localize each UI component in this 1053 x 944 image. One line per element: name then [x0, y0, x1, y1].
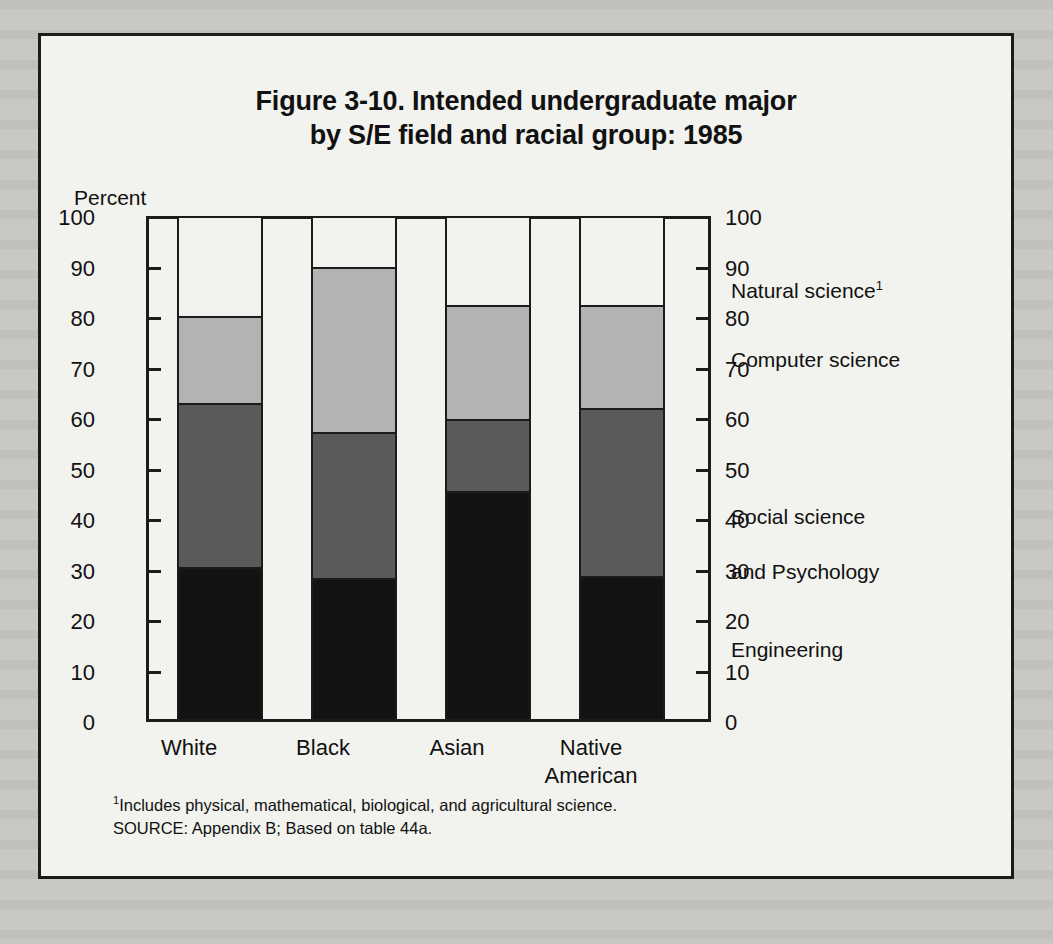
chart-title-line2: by S/E field and racial group: 1985: [41, 118, 1011, 152]
bar-black-segment-social[interactable]: [311, 432, 397, 578]
y-tick-right-60: [696, 418, 711, 421]
bar-native-american-segment-engineering[interactable]: [579, 576, 665, 719]
chart-title: Figure 3-10. Intended undergraduate majo…: [41, 84, 1011, 153]
plot-area: [146, 218, 711, 722]
figure-frame: Figure 3-10. Intended undergraduate majo…: [38, 33, 1014, 879]
footnote-text: Includes physical, mathematical, biologi…: [119, 796, 617, 814]
bar-black[interactable]: [311, 218, 397, 719]
y-label-left-90: 90: [35, 258, 95, 280]
y-label-right-10: 10: [725, 662, 785, 684]
y-tick-right-90: [696, 267, 711, 270]
bar-asian-segment-engineering[interactable]: [445, 491, 531, 719]
y-label-right-100: 100: [725, 207, 785, 229]
y-label-left-60: 60: [35, 409, 95, 431]
legend-natural-footnote-marker: 1: [876, 278, 883, 293]
footnote-line: 1Includes physical, mathematical, biolog…: [113, 793, 617, 817]
bar-asian-segment-social[interactable]: [445, 419, 531, 491]
legend-label-engineering: Engineering: [731, 636, 843, 663]
y-tick-right-70: [696, 368, 711, 371]
y-label-left-50: 50: [35, 460, 95, 482]
legend-social-line1: Social science: [731, 503, 879, 530]
y-tick-right-30: [696, 570, 711, 573]
y-tick-left-80: [146, 317, 161, 320]
y-tick-left-70: [146, 368, 161, 371]
bar-white[interactable]: [177, 218, 263, 719]
legend-natural-text: Natural science: [731, 279, 876, 302]
bar-black-segment-engineering[interactable]: [311, 578, 397, 719]
y-label-left-100: 100: [35, 207, 95, 229]
bar-native-american[interactable]: [579, 218, 665, 719]
x-label-native-american-line1: Native: [501, 734, 681, 762]
y-tick-left-50: [146, 469, 161, 472]
y-tick-right-40: [696, 519, 711, 522]
legend-social-line2: and Psychology: [731, 558, 879, 585]
x-label-native-american-line2: American: [501, 762, 681, 790]
bar-white-segment-natural[interactable]: [177, 218, 263, 316]
y-label-left-80: 80: [35, 308, 95, 330]
y-tick-right-50: [696, 469, 711, 472]
bar-native-american-segment-computer[interactable]: [579, 305, 665, 408]
x-label-native-american: Native American: [501, 734, 681, 790]
y-tick-left-40: [146, 519, 161, 522]
bar-asian[interactable]: [445, 218, 531, 719]
y-tick-left-60: [146, 418, 161, 421]
y-tick-right-80: [696, 317, 711, 320]
y-label-left-70: 70: [35, 359, 95, 381]
bar-white-segment-social[interactable]: [177, 403, 263, 567]
legend-label-computer-science: Computer science: [731, 346, 900, 373]
y-tick-left-30: [146, 570, 161, 573]
bar-white-segment-engineering[interactable]: [177, 567, 263, 719]
figure-inner: Figure 3-10. Intended undergraduate majo…: [41, 36, 1011, 876]
y-tick-left-20: [146, 620, 161, 623]
y-tick-right-10: [696, 671, 711, 674]
legend-label-natural-science: Natural science1: [731, 250, 883, 305]
y-label-left-30: 30: [35, 561, 95, 583]
y-label-right-60: 60: [725, 409, 785, 431]
bar-black-segment-natural[interactable]: [311, 218, 397, 267]
y-label-right-80: 80: [725, 308, 785, 330]
y-tick-left-90: [146, 267, 161, 270]
y-label-right-20: 20: [725, 611, 785, 633]
bar-native-american-segment-natural[interactable]: [579, 218, 665, 305]
y-label-left-0: 0: [35, 712, 95, 734]
legend-label-social-science: Social science and Psychology: [731, 476, 879, 612]
bar-asian-segment-computer[interactable]: [445, 305, 531, 419]
y-label-left-20: 20: [35, 611, 95, 633]
y-label-left-40: 40: [35, 510, 95, 532]
y-label-left-10: 10: [35, 662, 95, 684]
chart-title-line1: Figure 3-10. Intended undergraduate majo…: [41, 84, 1011, 118]
footnotes: 1Includes physical, mathematical, biolog…: [113, 793, 617, 841]
y-label-right-0: 0: [725, 712, 785, 734]
bar-black-segment-computer[interactable]: [311, 267, 397, 432]
bar-asian-segment-natural[interactable]: [445, 218, 531, 305]
bar-native-american-segment-social[interactable]: [579, 408, 665, 576]
source-line: SOURCE: Appendix B; Based on table 44a.: [113, 817, 617, 841]
bar-white-segment-computer[interactable]: [177, 316, 263, 403]
y-tick-left-10: [146, 671, 161, 674]
y-tick-right-20: [696, 620, 711, 623]
